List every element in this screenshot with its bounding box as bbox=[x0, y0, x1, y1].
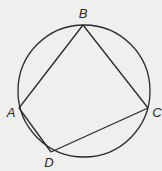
vertex-label-c: C bbox=[152, 105, 162, 120]
vertex-label-d: D bbox=[44, 155, 53, 170]
vertex-label-b: B bbox=[79, 6, 88, 21]
vertex-label-a: A bbox=[6, 105, 16, 120]
cyclic-quadrilateral-diagram: B A C D bbox=[0, 0, 162, 171]
